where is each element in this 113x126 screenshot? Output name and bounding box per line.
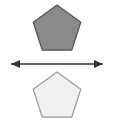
- pentagon-transformation-figure: [0, 0, 113, 126]
- diagram-root: Two congruent pentagons separated by a h…: [0, 0, 113, 126]
